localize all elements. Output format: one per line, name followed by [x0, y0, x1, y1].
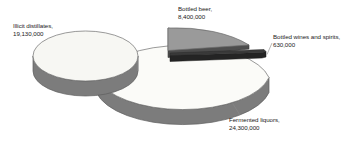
pie-slice-illicit-distillates-cut — [138, 56, 139, 71]
slice-label-bottled-wines-and-spirits-value: 630,000 — [273, 41, 340, 49]
slice-label-fermented-liquors-name: Fermented liquors, — [229, 116, 280, 124]
pie-chart-graphic — [0, 0, 358, 146]
slice-label-bottled-wines-and-spirits-name: Bottled wines and spirits, — [273, 33, 340, 41]
slice-label-bottled-wines-and-spirits: Bottled wines and spirits, 630,000 — [273, 33, 340, 50]
slice-label-bottled-beer-value: 8,400,000 — [178, 13, 212, 21]
slice-label-illicit-distillates-name: Illicit distillates, — [13, 22, 53, 30]
slice-label-bottled-beer: Bottled beer, 8,400,000 — [178, 5, 212, 22]
leader-line-bottled-wines — [267, 43, 272, 55]
slice-label-bottled-beer-name: Bottled beer, — [178, 5, 212, 13]
pie-chart-figure: Illicit distillates, 19,130,000 Bottled … — [0, 0, 358, 146]
pie-slice-illicit-distillates — [33, 31, 138, 96]
slice-label-illicit-distillates-value: 19,130,000 — [13, 30, 53, 38]
slice-label-fermented-liquors-value: 24,300,000 — [229, 124, 280, 132]
slice-label-fermented-liquors: Fermented liquors, 24,300,000 — [229, 116, 280, 133]
slice-label-illicit-distillates: Illicit distillates, 19,130,000 — [13, 22, 53, 39]
